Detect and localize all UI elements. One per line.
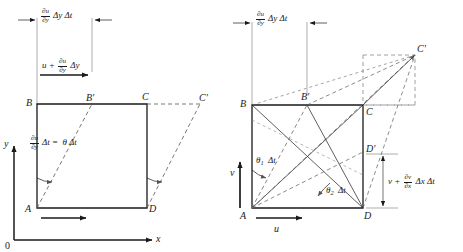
left-deformed-right-edge xyxy=(147,104,200,208)
left-dimension-tail: Δy Δt xyxy=(53,10,72,20)
left-velocity-formula: u + ∂u ∂y Δy xyxy=(42,58,80,75)
right-solid-c-to-cprime xyxy=(363,55,415,105)
right-angle-arc-theta1 xyxy=(252,170,266,178)
left-angle-arc-a xyxy=(37,178,52,182)
left-angle-formula: ∂u ∂y Δt = θ Δt xyxy=(29,135,77,152)
left-axis-origin: 0 xyxy=(5,241,10,251)
right-dimension-formula: ∂u ∂y Δy Δt xyxy=(255,11,287,28)
left-vertex-label-a: A xyxy=(25,204,31,214)
right-vertical-dimension-formula: v + ∂v ∂x Δx Δt xyxy=(388,174,435,191)
right-theta2-label: θ2 Δt xyxy=(326,186,346,196)
right-dimension-fraction: ∂u ∂y xyxy=(256,11,265,28)
right-vdim-denominator: ∂x xyxy=(404,182,413,191)
figure-vector-layer xyxy=(0,0,463,252)
right-vertex-label-cprime: C' xyxy=(417,44,426,54)
right-vertex-label-dprime: D' xyxy=(366,144,375,154)
right-dimension-tail: Δy Δt xyxy=(268,13,287,23)
right-dimension-numerator: ∂u xyxy=(256,11,265,19)
right-vdim-lead: v + xyxy=(388,176,400,186)
left-angle-denominator: ∂y xyxy=(30,143,39,152)
right-theta2-tail: Δt xyxy=(336,185,346,195)
right-theta1-tail: Δt xyxy=(266,155,276,165)
right-velocity-label-v: v xyxy=(230,168,234,178)
right-vertex-label-d: D xyxy=(364,211,371,221)
right-theta1-label: θ1 Δt xyxy=(256,156,276,166)
left-vertex-label-cprime: C' xyxy=(199,93,208,103)
left-velocity-lead: u + xyxy=(42,60,55,70)
right-dimension-denominator: ∂y xyxy=(256,19,265,28)
right-dashed-auxiliary xyxy=(252,120,363,175)
right-vertex-label-a: A xyxy=(240,211,246,221)
left-velocity-denominator: ∂y xyxy=(58,66,67,75)
left-vertex-label-d: D xyxy=(149,204,156,214)
left-original-square xyxy=(37,104,147,208)
right-dashed-bprime-to-cprime xyxy=(307,55,415,105)
left-dimension-numerator: ∂u xyxy=(41,8,50,16)
left-dimension-formula: ∂u ∂y Δy Δt xyxy=(40,8,72,25)
left-angle-numerator: ∂u xyxy=(30,135,39,143)
left-angle-mid: Δt = xyxy=(42,137,58,147)
left-angle-fraction: ∂u ∂y xyxy=(30,135,39,152)
right-theta2-subscript: 2 xyxy=(330,189,333,196)
left-deformed-left-edge xyxy=(37,104,92,208)
left-velocity-fraction: ∂u ∂y xyxy=(58,58,67,75)
left-velocity-tail: Δy xyxy=(70,60,79,70)
left-panel-geometry xyxy=(14,18,200,240)
left-axis-label-y: y xyxy=(4,139,8,149)
left-dimension-denominator: ∂y xyxy=(41,16,50,25)
right-vertex-label-bprime: B' xyxy=(301,92,309,102)
right-vertex-label-c: C xyxy=(366,107,373,117)
right-vdim-numerator: ∂v xyxy=(404,174,413,182)
right-dashed-b-to-cprime xyxy=(252,55,415,105)
left-angle-arc-d xyxy=(147,178,162,182)
right-theta1-subscript: 1 xyxy=(260,159,263,166)
right-vertex-label-b: B xyxy=(240,99,246,109)
fluid-element-deformation-figure: ∂u ∂y Δy Δt u + ∂u ∂y Δy ∂u ∂y Δt = θ Δt… xyxy=(0,0,463,252)
left-dimension-fraction: ∂u ∂y xyxy=(41,8,50,25)
left-vertex-label-b: B xyxy=(26,98,32,108)
right-vdim-fraction: ∂v ∂x xyxy=(404,174,413,191)
left-angle-tail: θ Δt xyxy=(60,137,76,147)
right-vdim-tail: Δx Δt xyxy=(415,176,434,186)
left-vertex-label-c: C xyxy=(142,92,149,102)
left-velocity-numerator: ∂u xyxy=(58,58,67,66)
left-vertex-label-bprime: B' xyxy=(86,93,94,103)
right-velocity-label-u: u xyxy=(274,224,279,234)
left-axis-label-x: x xyxy=(156,234,160,244)
